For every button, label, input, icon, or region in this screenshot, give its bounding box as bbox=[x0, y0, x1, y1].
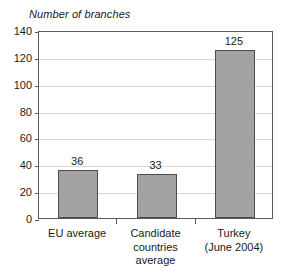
y-tick-label: 40 bbox=[0, 160, 32, 171]
y-tick-label: 80 bbox=[0, 106, 32, 117]
y-tick-label: 60 bbox=[0, 133, 32, 144]
y-tick-label: 0 bbox=[0, 214, 32, 225]
y-tick-label: 120 bbox=[0, 52, 32, 63]
y-tick-label: 20 bbox=[0, 187, 32, 198]
bar-value-label: 125 bbox=[204, 36, 264, 47]
bar-value-label: 36 bbox=[47, 156, 107, 167]
x-category-label: Turkey (June 2004) bbox=[184, 227, 284, 254]
bar-chart: Number of branches 020406080100120140 36… bbox=[0, 0, 289, 279]
x-separator-tick bbox=[195, 219, 196, 224]
bar-value-label: 33 bbox=[126, 160, 186, 171]
y-tick-label: 140 bbox=[0, 26, 32, 37]
x-axis-line bbox=[38, 218, 273, 219]
x-separator-tick bbox=[116, 219, 117, 224]
y-tick-label: 100 bbox=[0, 79, 32, 90]
